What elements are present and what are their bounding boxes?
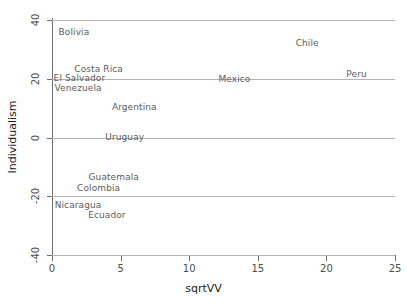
data-point-label: Peru [346, 69, 366, 79]
y-axis-title: Individualism [6, 100, 19, 173]
x-tick-label-0: 0 [49, 263, 55, 274]
gridline-y--40 [52, 255, 395, 256]
y-tick-label-0: 0 [30, 134, 41, 140]
x-axis-title: sqrtVV [0, 282, 407, 295]
x-tick-mark-10 [189, 256, 190, 261]
x-tick-label-25: 25 [389, 263, 402, 274]
x-tick-mark-5 [121, 256, 122, 261]
x-tick-label-10: 10 [183, 263, 196, 274]
data-point-label: Uruguay [105, 132, 144, 142]
x-tick-mark-15 [258, 256, 259, 261]
y-tick-label--20: -20 [30, 188, 41, 204]
x-tick-label-20: 20 [320, 263, 333, 274]
data-point-label: Mexico [218, 74, 250, 84]
y-tick-label-20: 20 [30, 72, 41, 85]
scatter-plot-figure: Individualism sqrtVV 40200-20-40 0510152… [0, 0, 407, 307]
y-tick-label--40: -40 [30, 247, 41, 263]
x-tick-label-5: 5 [117, 263, 123, 274]
x-tick-mark-20 [326, 256, 327, 261]
x-tick-mark-0 [52, 256, 53, 261]
data-point-label: Colombia [77, 183, 120, 193]
data-point-label: Guatemala [89, 172, 139, 182]
plot-area: BoliviaCosta RicaEl SalvadorVenezuelaArg… [52, 20, 395, 255]
x-tick-label-15: 15 [251, 263, 264, 274]
data-point-label: Argentina [112, 102, 157, 112]
x-tick-mark-25 [395, 256, 396, 261]
data-point-label: Chile [296, 38, 319, 48]
data-point-label: Bolivia [59, 27, 90, 37]
data-point-label: Venezuela [55, 83, 102, 93]
y-tick-label-40: 40 [30, 14, 41, 27]
data-point-label: Ecuador [88, 210, 125, 220]
data-point-label: Nicaragua [55, 200, 102, 210]
